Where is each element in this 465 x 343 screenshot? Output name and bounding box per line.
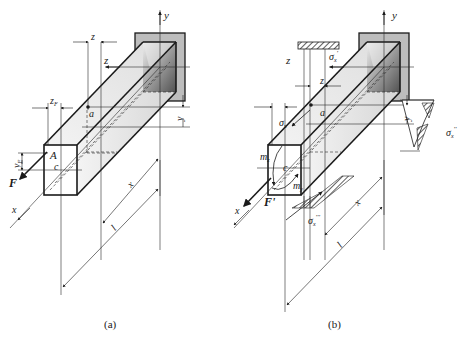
a-point-A-label: A: [49, 149, 57, 161]
a-z-axis-label: z: [103, 54, 109, 66]
a-len-x-label: x: [124, 178, 136, 190]
a-centroid-label: c: [54, 161, 59, 172]
a-point-a-label: a: [89, 108, 94, 119]
b-force-label: F': [263, 195, 276, 209]
b-sigma-triple-prime-label: σx''': [308, 213, 321, 227]
b-sigma-x-label: σx: [279, 117, 287, 129]
b-z-dim-label: z: [319, 75, 324, 86]
a-yF-label: yF: [11, 160, 23, 169]
a-x-axis-label: x: [11, 204, 17, 215]
diagram-canvas: y z z a y zF yF A c F x x l (a): [0, 0, 465, 343]
a-len-l-label: l: [109, 223, 119, 233]
a-y-axis-label: y: [163, 9, 169, 21]
b-point-a-label: a: [320, 107, 325, 118]
b-sigma-prime-label: σx': [329, 49, 339, 63]
b-y-axis-label: y: [391, 9, 397, 21]
b-len-l-label: l: [335, 240, 345, 250]
caption-b: (b): [328, 318, 341, 331]
caption-a: (a): [104, 318, 117, 331]
b-z-axis-label: z: [285, 54, 291, 66]
a-y-dim-label: y: [174, 116, 185, 122]
a-zF-label: zF: [49, 95, 58, 107]
b-sigma-double-prime-label: σx'': [446, 125, 457, 139]
a-z-dim-label: z: [90, 31, 95, 42]
b-centroid-label: c: [283, 162, 288, 173]
b-y-dim-label: y: [401, 116, 412, 122]
panel-a: [10, 10, 190, 295]
b-x-axis-label: x: [234, 205, 240, 216]
a-force-label: F: [8, 176, 17, 190]
